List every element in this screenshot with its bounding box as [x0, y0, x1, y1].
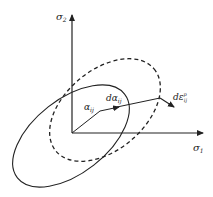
- dalpha-label: dαij: [106, 93, 122, 105]
- alpha-label: αij: [84, 102, 94, 114]
- alpha-vector: [72, 111, 100, 133]
- depsilon-vector: [160, 98, 174, 107]
- y-axis-label: σ2: [56, 11, 67, 23]
- yield-surface-diagram: σ2 σ1 αij dαij dεpij: [0, 0, 213, 197]
- x-axis-label: σ1: [193, 142, 204, 154]
- dalpha-vector: [100, 107, 119, 111]
- depsilon-label: dεpij: [173, 91, 188, 104]
- dalpha-extension: [117, 98, 160, 107]
